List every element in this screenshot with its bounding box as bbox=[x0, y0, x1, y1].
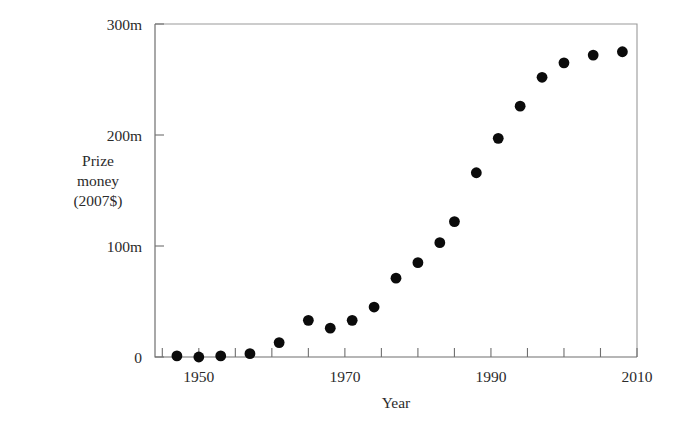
data-point bbox=[493, 133, 504, 144]
y-axis-title-line-3: (2007$) bbox=[73, 192, 122, 210]
plot-frame bbox=[155, 24, 637, 357]
y-tick-label: 200m bbox=[107, 127, 142, 144]
y-tick-label: 100m bbox=[107, 238, 142, 255]
data-point bbox=[449, 216, 460, 227]
y-axis-tick-labels: 0100m200m300m bbox=[107, 16, 143, 366]
y-axis-title-line-2: money bbox=[77, 172, 119, 189]
y-axis-title: Prize money (2007$) bbox=[73, 152, 122, 210]
x-tick-label: 1970 bbox=[329, 368, 360, 385]
data-point bbox=[559, 57, 570, 68]
x-tick-label: 1990 bbox=[475, 368, 506, 385]
data-point bbox=[537, 72, 548, 83]
y-tick-label: 0 bbox=[134, 349, 142, 366]
x-tick-label: 2010 bbox=[622, 368, 653, 385]
data-point bbox=[515, 101, 526, 112]
data-point bbox=[274, 337, 285, 348]
data-point bbox=[617, 46, 628, 57]
x-tick-label: 1950 bbox=[183, 368, 214, 385]
data-point bbox=[303, 315, 314, 326]
chart-figure: 0100m200m300m 1950197019902010 Prize mon… bbox=[0, 0, 686, 445]
data-point bbox=[369, 302, 380, 313]
x-axis-ticks bbox=[162, 348, 637, 357]
y-axis-ticks bbox=[155, 24, 164, 357]
scatter-plot: 0100m200m300m 1950197019902010 Prize mon… bbox=[0, 0, 686, 445]
data-point bbox=[245, 348, 256, 359]
data-point bbox=[391, 273, 402, 284]
data-point bbox=[193, 352, 204, 363]
data-point bbox=[325, 323, 336, 334]
x-axis-tick-labels: 1950197019902010 bbox=[183, 368, 652, 385]
data-point bbox=[434, 237, 445, 248]
data-point bbox=[172, 350, 183, 361]
data-point bbox=[215, 350, 226, 361]
y-axis-title-line-1: Prize bbox=[82, 152, 114, 169]
data-point bbox=[588, 50, 599, 61]
data-points bbox=[172, 46, 628, 362]
data-point bbox=[471, 167, 482, 178]
y-tick-label: 300m bbox=[107, 16, 142, 33]
data-point bbox=[413, 257, 424, 268]
data-point bbox=[347, 315, 358, 326]
x-axis-title: Year bbox=[382, 394, 411, 411]
